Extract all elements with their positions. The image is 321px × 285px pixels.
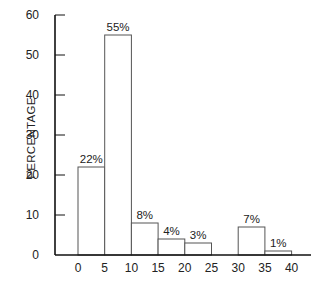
bar-value-label: 8% [136, 209, 153, 221]
y-tick-label: 60 [26, 8, 40, 22]
bar [238, 227, 265, 255]
bar [158, 239, 185, 255]
x-tick-label: 35 [258, 261, 272, 275]
bar [185, 243, 212, 255]
bar-value-label: 22% [80, 153, 103, 165]
y-tick-label: 0 [32, 248, 39, 262]
x-tick-label: 0 [75, 261, 82, 275]
bar [78, 167, 105, 255]
y-axis-title: PERCENTAGE [25, 97, 37, 178]
x-tick-label: 40 [285, 261, 299, 275]
x-tick-label: 25 [205, 261, 219, 275]
bar-value-label: 1% [270, 237, 287, 249]
x-tick-label: 20 [178, 261, 192, 275]
bar-value-label: 4% [163, 225, 180, 237]
y-tick-label: 10 [26, 208, 40, 222]
y-tick-label: 50 [26, 48, 40, 62]
x-tick-label: 15 [151, 261, 165, 275]
bar-value-label: 3% [190, 229, 207, 241]
x-tick-label: 5 [101, 261, 108, 275]
bar-value-label: 55% [107, 21, 130, 33]
bar [105, 35, 132, 255]
bar-value-label: 7% [243, 213, 260, 225]
histogram-chart: 22%55%8%4%3%7%1% 0102030405060 051015202… [0, 0, 321, 285]
x-tick-label: 10 [125, 261, 139, 275]
bar [131, 223, 158, 255]
x-axis-ticks: 0510152025303540 [75, 261, 299, 275]
x-tick-label: 30 [232, 261, 246, 275]
